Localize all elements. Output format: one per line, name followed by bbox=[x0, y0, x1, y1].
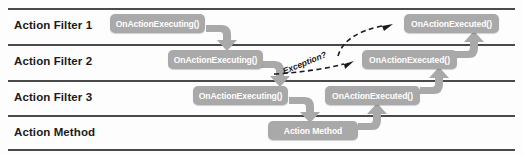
lane-divider bbox=[8, 149, 515, 151]
lane-label-action-filter-2: Action Filter 2 bbox=[14, 55, 92, 67]
lane-divider bbox=[8, 8, 515, 10]
lane-label-action-filter-1: Action Filter 1 bbox=[14, 19, 92, 31]
diagram-canvas: Action Filter 1 Action Filter 2 Action F… bbox=[0, 0, 523, 155]
hook-arrow-down-filter3-to-action-method bbox=[289, 94, 323, 124]
hook-arrow-down-filter1-to-filter2 bbox=[206, 22, 240, 52]
hook-arrow-up-filter3-to-filter2 bbox=[420, 65, 454, 97]
lane-label-action-filter-3: Action Filter 3 bbox=[14, 91, 92, 103]
hook-arrow-up-filter2-to-filter1 bbox=[455, 29, 489, 61]
node-filter1-on-action-executed[interactable]: OnActionExecuted() bbox=[404, 14, 499, 33]
node-filter3-on-action-executed[interactable]: OnActionExecuted() bbox=[325, 86, 420, 105]
node-action-method[interactable]: Action Method bbox=[268, 121, 358, 140]
node-filter1-on-action-executing[interactable]: OnActionExecuting() bbox=[110, 14, 205, 33]
node-filter2-on-action-executed[interactable]: OnActionExecuted() bbox=[362, 50, 457, 69]
hook-arrow-up-action-method-to-filter3 bbox=[358, 101, 392, 133]
lane-label-action-method: Action Method bbox=[14, 126, 95, 138]
lane-divider bbox=[8, 115, 515, 117]
node-filter3-on-action-executing[interactable]: OnActionExecuting() bbox=[193, 86, 288, 105]
lane-divider bbox=[8, 44, 515, 46]
node-filter2-on-action-executing[interactable]: OnActionExecuting() bbox=[168, 50, 263, 69]
